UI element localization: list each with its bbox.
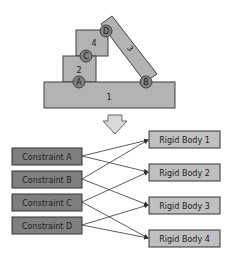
constraint-b-label: Constraint B — [22, 176, 72, 185]
rigid-body-4-label: Rigid Body 4 — [159, 235, 210, 244]
edge-a-rb2 — [82, 156, 148, 172]
edge-a-rb1 — [82, 140, 148, 156]
body-1-label: 1 — [106, 93, 111, 102]
constraint-d: Constraint D — [12, 217, 82, 234]
constraint-b: Constraint B — [12, 171, 82, 188]
rigid-body-1: Rigid Body 1 — [149, 131, 220, 148]
rigid-body-3: Rigid Body 3 — [149, 197, 220, 214]
edge-b-rb3 — [82, 179, 148, 205]
constraint-c-label: Constraint C — [22, 199, 72, 208]
joint-B-label: B — [143, 78, 149, 87]
rigid-body-2-label: Rigid Body 2 — [159, 169, 210, 178]
down-arrow-icon — [103, 115, 127, 134]
joint-A-label: A — [76, 78, 82, 87]
edge-c-rb2 — [82, 172, 148, 202]
mechanism-illustration: 3 4 2 1 A C D B — [44, 16, 175, 108]
edge-d-rb3 — [82, 205, 148, 225]
body-4-label: 4 — [91, 39, 96, 48]
body-2-label: 2 — [76, 66, 81, 75]
edge-c-rb4 — [82, 202, 148, 238]
joint-D: D — [100, 25, 112, 37]
joint-C: C — [80, 50, 92, 62]
joint-B: B — [140, 76, 152, 88]
joint-D-label: D — [103, 27, 109, 36]
edge-b-rb1 — [82, 140, 148, 179]
diagram-canvas: 3 4 2 1 A C D B — [0, 0, 232, 260]
joint-A: A — [73, 76, 85, 88]
constraint-c: Constraint C — [12, 194, 82, 211]
rigid-body-1-label: Rigid Body 1 — [159, 136, 210, 145]
constraint-edges — [82, 140, 148, 238]
constraint-a-label: Constraint A — [22, 153, 72, 162]
constraint-a: Constraint A — [12, 148, 82, 165]
edge-d-rb4 — [82, 225, 148, 238]
rigid-body-2: Rigid Body 2 — [149, 164, 220, 181]
constraint-d-label: Constraint D — [22, 222, 72, 231]
body-1: 1 — [44, 82, 175, 108]
joint-C-label: C — [83, 52, 89, 61]
rigid-body-3-label: Rigid Body 3 — [159, 202, 210, 211]
rigid-body-4: Rigid Body 4 — [149, 230, 220, 247]
